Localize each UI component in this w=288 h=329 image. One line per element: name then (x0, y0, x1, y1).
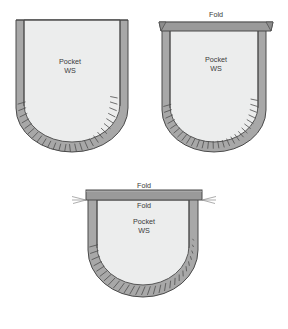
pocket-step-3-group: Fold (72, 181, 216, 297)
ws-label-1: WS (64, 66, 76, 75)
pocket-label-3: Pocket (133, 217, 155, 226)
pocket-diagram-figure: Pocket WS Fold (0, 0, 288, 329)
ws-label-2: WS (210, 64, 222, 73)
pocket-step-1-group: Pocket WS (16, 20, 128, 152)
pocket-body-3 (97, 200, 189, 285)
fold-bar-2 (159, 22, 273, 31)
pocket-diagram-canvas: Pocket WS Fold (0, 0, 288, 329)
pocket-label-1: Pocket (59, 57, 81, 66)
fold-bar-whiskers-right-3 (202, 197, 216, 204)
ws-label-3: WS (138, 226, 150, 235)
pocket-body-1 (24, 20, 120, 142)
fold-label-lower-3: Fold (137, 201, 151, 210)
fold-bar-whiskers-left-3 (72, 197, 86, 204)
pocket-body-2 (170, 30, 258, 142)
pocket-step-2-group: Fold (159, 10, 273, 152)
fold-label-top-2: Fold (209, 10, 223, 19)
fold-label-upper-3: Fold (137, 181, 151, 190)
pocket-label-2: Pocket (205, 55, 227, 64)
